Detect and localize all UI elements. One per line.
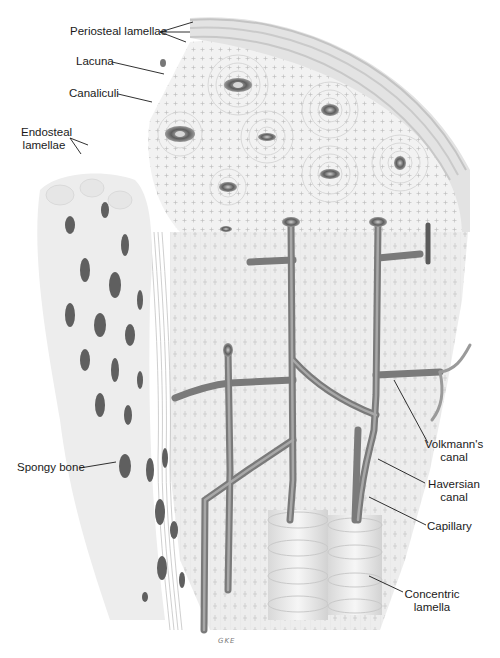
compact-bone-longitudinal — [150, 217, 470, 630]
label-haversian-line2: canal — [424, 491, 484, 504]
label-canaliculi: Canaliculi — [69, 87, 119, 100]
artist-signature: GKE — [218, 637, 235, 645]
label-periosteal-lamellae: Periosteal lamellae — [70, 25, 167, 38]
label-endosteal-line1: Endosteal — [21, 126, 67, 139]
label-volkmanns-canal: Volkmann's canal — [424, 438, 484, 464]
label-spongy-bone: Spongy bone — [17, 461, 85, 474]
label-haversian-line1: Haversian — [424, 478, 484, 491]
leader-lacuna — [112, 62, 164, 74]
leader-canaliculi — [118, 94, 152, 102]
label-concentric-line1: Concentric — [400, 588, 464, 601]
label-haversian-canal: Haversian canal — [424, 478, 484, 504]
label-concentric-line2: lamella — [400, 601, 464, 614]
label-concentric-lamella: Concentric lamella — [400, 588, 464, 614]
compact-bone-cross-section — [148, 17, 470, 232]
concentric-lamella-cylinders — [268, 510, 382, 620]
leader-endosteal-lamellae — [70, 138, 88, 154]
label-volkmanns-line2: canal — [424, 451, 484, 464]
label-lacuna: Lacuna — [76, 55, 114, 68]
label-volkmanns-line1: Volkmann's — [424, 438, 484, 451]
label-endosteal-lamellae: Endosteal lamellae — [21, 126, 67, 152]
label-endosteal-line2: lamellae — [21, 139, 67, 152]
label-capillary: Capillary — [427, 520, 472, 533]
